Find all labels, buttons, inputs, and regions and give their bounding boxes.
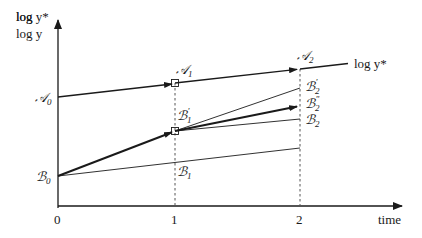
y-axis-label-1: log y* — [16, 9, 49, 24]
x-tick-1: 1 — [171, 212, 178, 227]
label-b2: ℬ2 — [305, 112, 320, 129]
label-a1: 𝒜1 — [176, 62, 193, 79]
curve-label-log-ystar: log y* — [354, 56, 387, 71]
label-b0: ℬ0 — [36, 169, 51, 186]
x-tick-0: 0 — [54, 212, 61, 227]
path-a2-extension — [300, 64, 348, 70]
path-a1-a2 — [175, 69, 297, 83]
x-axis-label: time — [378, 212, 401, 227]
label-b2doubleprime: ℬ2" — [305, 94, 320, 113]
label-a0: 𝒜0 — [35, 90, 52, 107]
label-b1: ℬ1 — [177, 164, 192, 181]
label-a2: 𝒜2 — [297, 48, 314, 65]
path-a0-a1 — [58, 84, 172, 97]
diagram-canvas: log log y* log y time log y* 0 1 2 𝒜0 ℬ0… — [0, 0, 422, 238]
y-axis-label-2: log y — [16, 26, 43, 41]
label-b1prime: ℬ1' — [177, 106, 192, 125]
x-tick-2: 2 — [296, 212, 303, 227]
